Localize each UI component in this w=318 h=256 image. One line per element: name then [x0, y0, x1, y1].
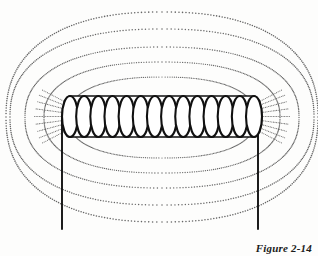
solenoid-field-diagram — [0, 0, 318, 256]
solenoid-coil — [62, 96, 262, 137]
figure-caption: Figure 2-14 — [256, 242, 312, 254]
figure-container: Figure 2-14 — [0, 0, 318, 256]
